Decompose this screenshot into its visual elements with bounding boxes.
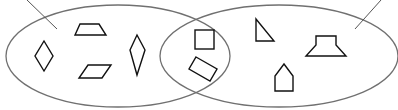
square-shape — [195, 30, 214, 49]
kite-shape — [130, 35, 145, 75]
parallelogram-shape — [79, 65, 111, 78]
hexagon-shape — [306, 36, 346, 56]
right-set-pointer-line — [355, 0, 381, 29]
rhombus-shape — [35, 41, 53, 71]
venn-svg — [0, 0, 398, 110]
venn-diagram — [0, 0, 398, 110]
trapezoid-shape — [75, 24, 106, 35]
pentagon-shape — [275, 64, 293, 91]
rectangle-shape — [189, 57, 217, 81]
left-set-ellipse — [6, 5, 230, 107]
right-triangle-shape — [256, 19, 274, 41]
